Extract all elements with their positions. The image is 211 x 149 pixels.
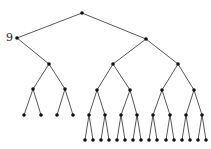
tree-edge bbox=[162, 90, 170, 115]
tree-edge bbox=[146, 39, 178, 64]
tree-edge bbox=[57, 89, 65, 115]
tree-edge bbox=[97, 90, 105, 115]
tree-node bbox=[15, 36, 19, 40]
tree-edge bbox=[130, 90, 137, 115]
tree-edge bbox=[186, 90, 194, 115]
tree-edge bbox=[105, 115, 109, 140]
tree-edge bbox=[194, 90, 202, 115]
tree-node bbox=[123, 138, 127, 142]
tree-edge bbox=[166, 115, 170, 140]
tree-node bbox=[83, 138, 87, 142]
tree-edge bbox=[162, 64, 178, 90]
tree-node bbox=[39, 113, 43, 117]
tree-node bbox=[168, 113, 172, 117]
tree-node bbox=[184, 113, 188, 117]
tree-node bbox=[119, 113, 123, 117]
tree-node bbox=[196, 138, 200, 142]
tree-node bbox=[115, 138, 119, 142]
tree-edge bbox=[153, 90, 162, 115]
tree-edge bbox=[85, 115, 89, 140]
tree-edge bbox=[17, 13, 82, 38]
tree-edge bbox=[17, 38, 49, 64]
tree-node bbox=[128, 88, 132, 92]
tree-node bbox=[139, 138, 143, 142]
tree-node bbox=[95, 88, 99, 92]
tree-node bbox=[87, 113, 91, 117]
tree-node bbox=[147, 138, 151, 142]
tree-node bbox=[22, 113, 26, 117]
tree-node bbox=[135, 113, 139, 117]
tree-edge bbox=[89, 115, 93, 140]
tree-edge bbox=[198, 115, 202, 140]
tree-edge bbox=[133, 115, 137, 140]
tree-canvas bbox=[0, 0, 211, 149]
tree-edge bbox=[153, 115, 157, 140]
tree-edge bbox=[33, 64, 49, 89]
tree-node bbox=[55, 113, 59, 117]
tree-edge bbox=[178, 64, 194, 90]
tree-node bbox=[144, 37, 148, 41]
tree-node bbox=[103, 113, 107, 117]
tree-edge bbox=[137, 115, 141, 140]
tree-node bbox=[180, 138, 184, 142]
tree-edge bbox=[24, 89, 33, 115]
tree-node bbox=[188, 138, 192, 142]
tree-edge bbox=[97, 64, 113, 90]
tree-node bbox=[91, 138, 95, 142]
tree-edge bbox=[121, 90, 130, 115]
tree-node bbox=[63, 87, 67, 91]
tree-node bbox=[160, 88, 164, 92]
tree-node bbox=[107, 138, 111, 142]
tree-edge bbox=[186, 115, 190, 140]
tree-edge bbox=[101, 115, 105, 140]
tree-node bbox=[31, 87, 35, 91]
tree-node bbox=[47, 62, 51, 66]
tree-node bbox=[172, 138, 176, 142]
tree-node bbox=[111, 62, 115, 66]
tree-node bbox=[151, 113, 155, 117]
tree-edge bbox=[113, 64, 130, 90]
tree-edge bbox=[82, 13, 146, 39]
tree-edge bbox=[117, 115, 121, 140]
tree-node bbox=[164, 138, 168, 142]
tree-edge bbox=[121, 115, 125, 140]
tree-edge bbox=[182, 115, 186, 140]
tree-edge bbox=[113, 39, 146, 64]
tree-edge bbox=[202, 115, 206, 140]
tree-edge bbox=[170, 115, 174, 140]
tree-node bbox=[204, 138, 208, 142]
tree-node bbox=[99, 138, 103, 142]
tree-node bbox=[155, 138, 159, 142]
tree-node bbox=[192, 88, 196, 92]
tree-node bbox=[176, 62, 180, 66]
tree-edge bbox=[33, 89, 41, 115]
tree-edge bbox=[149, 115, 153, 140]
tree-edge bbox=[49, 64, 65, 89]
node-label-9: 9 bbox=[6, 31, 13, 44]
tree-node bbox=[80, 11, 84, 15]
tree-edge bbox=[89, 90, 97, 115]
tree-node bbox=[131, 138, 135, 142]
tree-edge bbox=[65, 89, 73, 115]
tree-diagram: 9 bbox=[0, 0, 211, 149]
tree-node bbox=[200, 113, 204, 117]
tree-node bbox=[71, 113, 75, 117]
